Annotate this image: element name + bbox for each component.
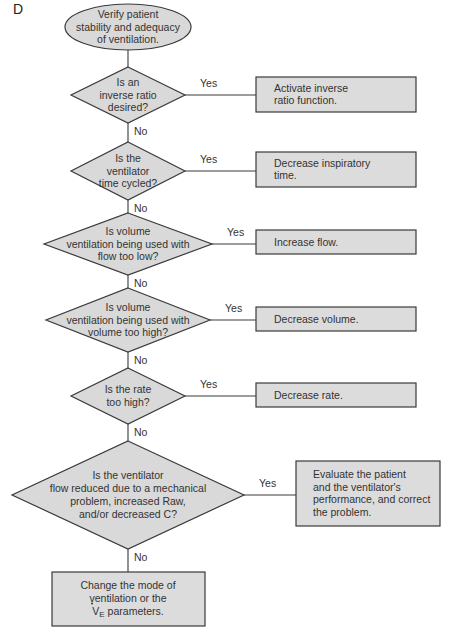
- decision-text: and/or decreased C?: [79, 508, 177, 520]
- decision-text: Is volume: [106, 301, 151, 313]
- no-label: No: [134, 551, 148, 563]
- action-text: Activate inverse: [274, 82, 348, 94]
- end-text: Change the mode of: [80, 579, 175, 591]
- decision-text: Is an: [117, 76, 140, 88]
- decision-text: volume too high?: [88, 326, 168, 338]
- action-text: time.: [274, 169, 297, 181]
- decision-text: Is volume: [106, 225, 151, 237]
- decision-text: flow too low?: [98, 250, 159, 262]
- start-text: of ventilation.: [97, 33, 159, 45]
- decision-text: Is the rate: [105, 383, 152, 395]
- action-text: and the ventilator's: [313, 481, 401, 493]
- no-label: No: [134, 202, 148, 214]
- decision-text: desired?: [108, 101, 148, 113]
- decision-text: ventilation being used with: [66, 238, 189, 250]
- decision-text: inverse ratio: [99, 89, 156, 101]
- decision-text: Is the ventilator: [92, 469, 164, 481]
- action-text: performance, and correct: [313, 493, 430, 505]
- yes-label: Yes: [200, 153, 217, 165]
- action-text: Evaluate the patient: [313, 468, 406, 480]
- action-text: the problem.: [313, 506, 371, 518]
- action-text: Decrease rate.: [274, 389, 343, 401]
- decision-text: ventilation being used with: [66, 314, 189, 326]
- yes-label: Yes: [200, 77, 217, 89]
- decision-text: too high?: [106, 396, 149, 408]
- no-label: No: [134, 125, 148, 137]
- action-text: ratio function.: [274, 94, 337, 106]
- end-text: ventilation or the: [89, 592, 166, 604]
- yes-label: Yes: [259, 477, 276, 489]
- decision-text: ventilator: [107, 165, 150, 177]
- decision-text: Is the: [115, 152, 141, 164]
- start-text: Verify patient: [98, 8, 159, 20]
- decision-text: time cycled?: [99, 177, 158, 189]
- yes-label: Yes: [200, 378, 217, 390]
- action-text: Increase flow.: [274, 236, 338, 248]
- decision-text: flow reduced due to a mechanical: [50, 482, 206, 494]
- no-label: No: [134, 354, 148, 366]
- action-text: Decrease volume.: [274, 313, 359, 325]
- ve-rest: parameters.: [105, 605, 164, 617]
- decision-text: problem, increased Raw,: [70, 495, 186, 507]
- flowchart: Verify patientstability and adequacyof v…: [0, 0, 460, 639]
- no-label: No: [134, 426, 148, 438]
- start-text: stability and adequacy: [76, 21, 181, 33]
- no-label: No: [134, 277, 148, 289]
- ve-dot: [91, 603, 93, 605]
- ve-symbol: V: [92, 605, 99, 617]
- action-text: Decrease inspiratory: [274, 157, 371, 169]
- yes-label: Yes: [225, 302, 242, 314]
- yes-label: Yes: [227, 226, 244, 238]
